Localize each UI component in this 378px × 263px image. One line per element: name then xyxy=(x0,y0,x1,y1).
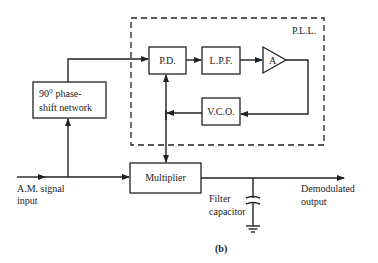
filter-label-line1: Filter xyxy=(209,193,231,204)
output-label-line1: Demodulated xyxy=(301,183,355,194)
pll-am-demodulator-diagram: P.L.L. P.D. L.P.F. A V.C.O. 90° phase- s… xyxy=(0,0,378,263)
low-pass-filter-block: L.P.F. xyxy=(202,47,240,74)
phase-detector-block: P.D. xyxy=(149,47,186,74)
svg-text:90° phase-: 90° phase- xyxy=(39,88,82,99)
amp-to-vco xyxy=(241,60,308,114)
amplifier-block: A xyxy=(263,47,286,73)
output-label-line2: output xyxy=(301,196,327,207)
svg-text:L.P.F.: L.P.F. xyxy=(210,55,233,66)
pll-boundary xyxy=(131,18,324,145)
svg-text:V.C.O.: V.C.O. xyxy=(207,106,234,117)
svg-text:A: A xyxy=(269,55,277,66)
pll-label: P.L.L. xyxy=(292,25,316,36)
input-label-line2: input xyxy=(17,195,38,206)
input-label-line1: A.M. signal xyxy=(17,183,65,194)
phase-shift-to-pd xyxy=(68,59,148,82)
svg-text:P.D.: P.D. xyxy=(159,55,176,66)
phase-shift-network-block: 90° phase- shift network xyxy=(33,82,106,118)
filter-label-line2: capacitor xyxy=(209,206,246,217)
svg-text:Multiplier: Multiplier xyxy=(145,172,186,183)
vco-block: V.C.O. xyxy=(202,98,240,125)
figure-caption: (b) xyxy=(215,243,227,255)
svg-text:shift network: shift network xyxy=(39,102,92,113)
multiplier-block: Multiplier xyxy=(130,163,201,193)
